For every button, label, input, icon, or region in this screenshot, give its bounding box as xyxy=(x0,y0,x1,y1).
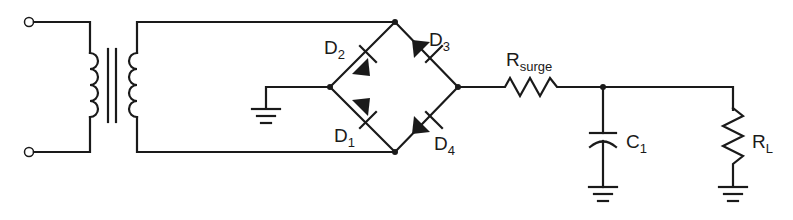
transformer-primary xyxy=(34,22,98,152)
label-c1: C1 xyxy=(626,131,647,156)
ground-symbol xyxy=(252,87,330,123)
junction-dot xyxy=(392,19,398,25)
input-terminal-bottom xyxy=(25,148,34,157)
diode-d4 xyxy=(412,112,442,134)
transformer-core xyxy=(108,49,116,122)
label-d3: D3 xyxy=(429,29,450,54)
transformer-secondary xyxy=(129,22,395,152)
input-terminal-top xyxy=(25,18,34,27)
resistor-rsurge xyxy=(458,78,603,96)
label-rsurge: Rsurge xyxy=(506,49,552,74)
label-d1: D1 xyxy=(334,125,355,150)
junction-dot xyxy=(392,149,398,155)
label-rl: RL xyxy=(752,131,773,156)
resistor-rl xyxy=(719,108,747,201)
label-d2: D2 xyxy=(324,37,345,62)
label-d4: D4 xyxy=(434,133,455,158)
capacitor-c1 xyxy=(589,87,617,201)
